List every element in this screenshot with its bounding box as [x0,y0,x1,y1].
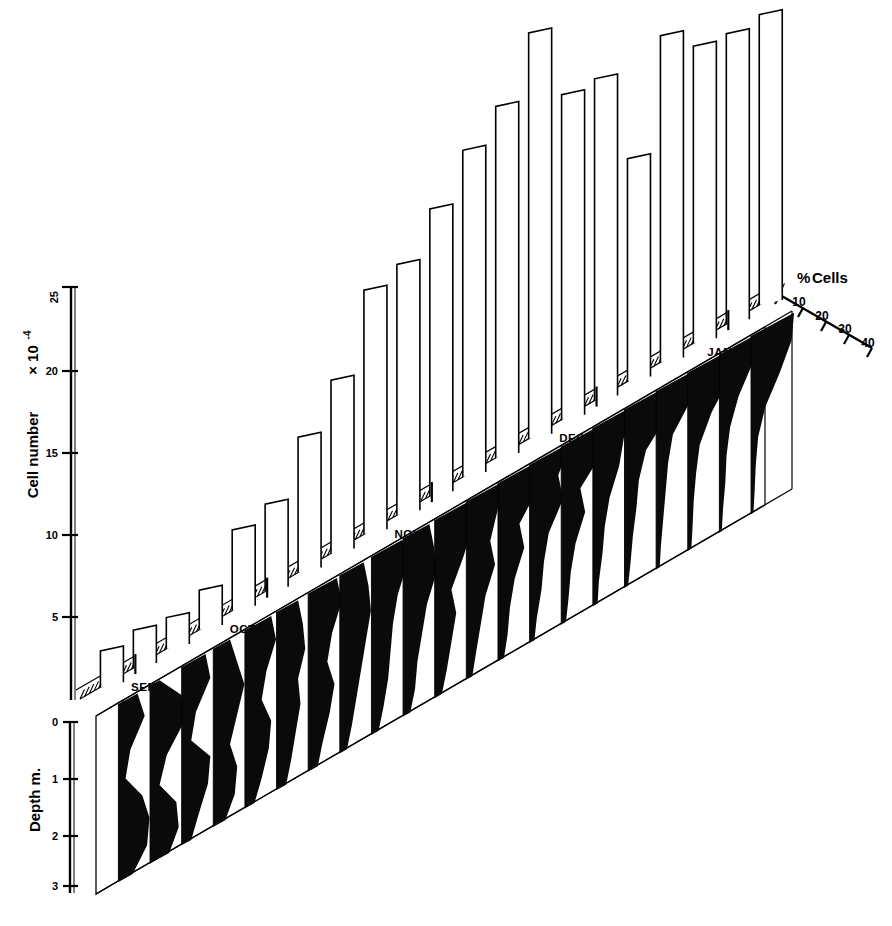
bar-12 [463,145,486,477]
depth-profile-4 [213,640,244,827]
bar-15 [562,90,585,420]
depth-axis: 0 1 2 3 Depth m. [26,716,78,893]
depth-profile-21 [751,313,794,514]
figure-canvas: 25 20 15 10 5 Cell number × 10 -4 0 1 2 … [0,0,892,926]
bar-3 [166,613,189,649]
depth-profile-8 [340,562,371,753]
bar-14 [529,28,552,439]
bar-18 [660,31,683,363]
bar-5 [232,525,255,611]
cell-number-axis-exponent: -4 [22,330,33,339]
cell-number-axis: 25 20 15 10 5 Cell number × 10 -4 [22,287,78,700]
depth-profile-3 [182,654,211,845]
bar-19 [693,41,716,343]
chart-svg: 25 20 15 10 5 Cell number × 10 -4 0 1 2 … [0,0,892,926]
bar-10 [397,259,420,515]
cellnum-tick-25: 25 [48,291,60,303]
cell-number-axis-title: Cell number [24,411,41,498]
bar-7 [298,432,321,572]
depth-profile-10 [403,524,436,716]
depth-tick-0: 0 [52,716,58,728]
depth-profile-2 [150,680,186,863]
depth-profile-5 [245,616,276,808]
percent-cells-symbol: % [797,269,810,286]
bar-1 [100,646,123,687]
bar-21 [759,10,782,305]
percent-tick-40: 40 [861,336,875,350]
percent-tick-20: 20 [815,309,829,323]
percent-cells-title: Cells [812,269,848,286]
depth-profile-12 [466,482,502,680]
bar-6 [265,499,288,591]
bar-20 [726,29,749,324]
depth-profile-7 [308,578,341,772]
cellnum-tick-5: 5 [52,611,58,623]
bar-8 [331,375,354,553]
percent-tick-30: 30 [838,322,852,336]
bar-9 [364,285,387,534]
depth-tick-3: 3 [52,880,58,892]
cellnum-tick-15: 15 [46,447,58,459]
bar-17 [627,154,650,382]
bar-4 [199,585,222,630]
bar-16 [595,74,618,401]
percent-tick-10: 10 [792,295,806,309]
cellnum-tick-10: 10 [46,529,58,541]
depth-tick-1: 1 [52,773,58,785]
bar-11 [430,204,453,496]
bar-13 [496,101,519,457]
bar-2 [133,625,156,668]
depth-tick-2: 2 [52,830,58,842]
cell-number-axis-multiplier: × 10 [24,345,41,375]
cellnum-tick-20: 20 [46,365,58,377]
depth-axis-title: Depth m. [26,768,43,832]
depth-profile-1 [118,693,149,881]
depth-profile-6 [277,600,306,790]
depth-profile-9 [371,540,407,735]
